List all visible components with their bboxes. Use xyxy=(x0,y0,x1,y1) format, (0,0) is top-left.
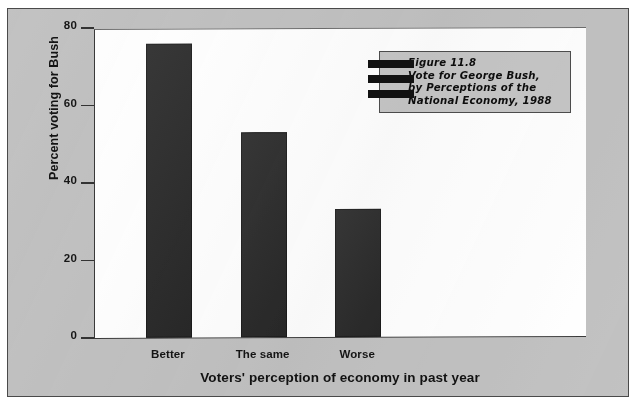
bar xyxy=(335,209,381,337)
bar xyxy=(241,132,287,338)
y-tick-line xyxy=(81,27,94,29)
x-axis-title: Voters' perception of economy in past ye… xyxy=(94,370,586,385)
caption-mark-2 xyxy=(368,75,414,83)
y-tick-label: 40 xyxy=(64,175,77,187)
y-tick-label: 0 xyxy=(70,330,77,342)
x-tick-label: Worse xyxy=(297,348,417,360)
figure-panel: Percent voting for Bush 020406080 Better… xyxy=(7,8,629,397)
y-tick-line xyxy=(81,337,94,339)
y-tick-label: 20 xyxy=(64,253,77,265)
figure-caption-text: Figure 11.8 Vote for George Bush, by Per… xyxy=(408,57,562,107)
y-tick-label: 60 xyxy=(64,98,77,110)
y-tick-line xyxy=(81,182,94,184)
bar-series xyxy=(95,28,586,30)
y-tick-label: 80 xyxy=(64,20,77,32)
caption-decoration-bars xyxy=(368,60,414,104)
scanned-figure-page: Percent voting for Bush 020406080 Better… xyxy=(0,0,639,416)
y-axis-title: Percent voting for Bush xyxy=(47,13,61,203)
caption-mark-1 xyxy=(368,60,414,68)
y-tick-line xyxy=(81,260,94,262)
y-tick-line xyxy=(81,105,94,107)
bar xyxy=(146,43,192,338)
caption-mark-3 xyxy=(368,90,414,98)
